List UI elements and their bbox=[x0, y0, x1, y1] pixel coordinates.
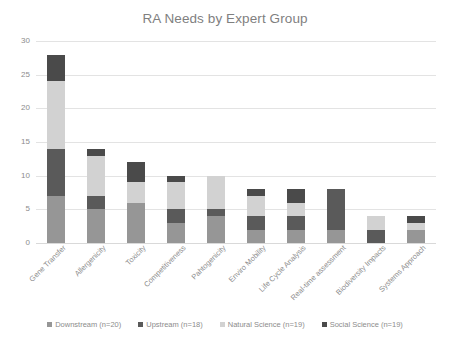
y-tick-label-5: 5 bbox=[4, 205, 30, 213]
bar-segment[interactable] bbox=[407, 223, 425, 230]
legend-label: Natural Science (n=19) bbox=[228, 320, 305, 329]
x-tick-label: Gene Transfer bbox=[28, 244, 67, 283]
bar-segment[interactable] bbox=[407, 216, 425, 223]
bar-segment[interactable] bbox=[47, 196, 65, 243]
chart-title: RA Needs by Expert Group bbox=[0, 11, 450, 26]
bar-segment[interactable] bbox=[247, 196, 265, 216]
bar-segment[interactable] bbox=[247, 189, 265, 196]
bar-stack bbox=[167, 176, 185, 243]
y-tick-label-25: 25 bbox=[4, 71, 30, 79]
bar-segment[interactable] bbox=[167, 209, 185, 222]
bar-group[interactable] bbox=[127, 41, 145, 243]
bar-group[interactable] bbox=[47, 41, 65, 243]
bar-segment[interactable] bbox=[167, 182, 185, 209]
legend-label: Downstream (n=20) bbox=[55, 320, 121, 329]
bar-stack bbox=[207, 176, 225, 243]
y-tick-label-0: 0 bbox=[4, 239, 30, 247]
bar-segment[interactable] bbox=[167, 176, 185, 183]
bar-segment[interactable] bbox=[87, 209, 105, 243]
legend-item[interactable]: Natural Science (n=19) bbox=[220, 320, 305, 329]
x-tick-label: Competitiveness bbox=[143, 244, 188, 289]
y-tick-label-30: 30 bbox=[4, 37, 30, 45]
y-tick-label-15: 15 bbox=[4, 138, 30, 146]
x-axis: Gene TransferAllergenicityToxicityCompet… bbox=[36, 244, 436, 312]
bar-segment[interactable] bbox=[87, 149, 105, 156]
bar-segment[interactable] bbox=[407, 230, 425, 243]
bar-segment[interactable] bbox=[287, 203, 305, 216]
y-axis: 051015202530 bbox=[0, 41, 30, 243]
bar-segment[interactable] bbox=[247, 230, 265, 243]
legend-item[interactable]: Upstream (n=18) bbox=[138, 320, 202, 329]
bar-stack bbox=[327, 189, 345, 243]
bar-stack bbox=[247, 189, 265, 243]
bar-segment[interactable] bbox=[47, 149, 65, 196]
bar-group[interactable] bbox=[287, 41, 305, 243]
y-tick-label-20: 20 bbox=[4, 104, 30, 112]
x-tick-label: Toxicity bbox=[125, 244, 148, 267]
chart-figure: RA Needs by Expert Group 051015202530 Ge… bbox=[0, 0, 450, 364]
bar-segment[interactable] bbox=[87, 156, 105, 196]
bar-segment[interactable] bbox=[287, 189, 305, 202]
bar-group[interactable] bbox=[407, 41, 425, 243]
bar-segment[interactable] bbox=[367, 230, 385, 243]
plot-area bbox=[36, 41, 436, 243]
legend-label: Upstream (n=18) bbox=[146, 320, 202, 329]
bar-stack bbox=[47, 55, 65, 244]
bar-segment[interactable] bbox=[207, 216, 225, 243]
bar-group[interactable] bbox=[247, 41, 265, 243]
legend-swatch-icon bbox=[47, 322, 52, 327]
legend-item[interactable]: Social Science (n=19) bbox=[322, 320, 403, 329]
bar-segment[interactable] bbox=[127, 182, 145, 202]
bar-segment[interactable] bbox=[127, 162, 145, 182]
bar-stack bbox=[407, 216, 425, 243]
bar-stack bbox=[127, 162, 145, 243]
legend-swatch-icon bbox=[138, 322, 143, 327]
bar-segment[interactable] bbox=[47, 55, 65, 82]
legend-label: Social Science (n=19) bbox=[330, 320, 403, 329]
x-tick-label: Allergenicity bbox=[73, 244, 107, 278]
bar-series-container bbox=[36, 41, 436, 243]
bar-segment[interactable] bbox=[207, 176, 225, 210]
bar-segment[interactable] bbox=[127, 203, 145, 243]
bar-stack bbox=[367, 216, 385, 243]
bar-group[interactable] bbox=[207, 41, 225, 243]
bar-group[interactable] bbox=[167, 41, 185, 243]
chart-legend: Downstream (n=20)Upstream (n=18)Natural … bbox=[0, 320, 450, 329]
bar-group[interactable] bbox=[327, 41, 345, 243]
legend-swatch-icon bbox=[322, 322, 327, 327]
bar-segment[interactable] bbox=[207, 209, 225, 216]
bar-segment[interactable] bbox=[247, 216, 265, 229]
bar-segment[interactable] bbox=[167, 223, 185, 243]
bar-segment[interactable] bbox=[287, 230, 305, 243]
legend-item[interactable]: Downstream (n=20) bbox=[47, 320, 121, 329]
legend-swatch-icon bbox=[220, 322, 225, 327]
bar-segment[interactable] bbox=[367, 216, 385, 229]
bar-segment[interactable] bbox=[327, 189, 345, 229]
bar-group[interactable] bbox=[367, 41, 385, 243]
bar-segment[interactable] bbox=[47, 81, 65, 148]
x-tick-label: Enviro Mobility bbox=[228, 244, 268, 284]
bar-stack bbox=[287, 189, 305, 243]
y-tick-label-10: 10 bbox=[4, 172, 30, 180]
x-tick-label: Pahtogenicity bbox=[190, 244, 227, 281]
bar-segment[interactable] bbox=[287, 216, 305, 229]
bar-segment[interactable] bbox=[327, 230, 345, 243]
bar-stack bbox=[87, 149, 105, 243]
bar-segment[interactable] bbox=[87, 196, 105, 209]
bar-group[interactable] bbox=[87, 41, 105, 243]
